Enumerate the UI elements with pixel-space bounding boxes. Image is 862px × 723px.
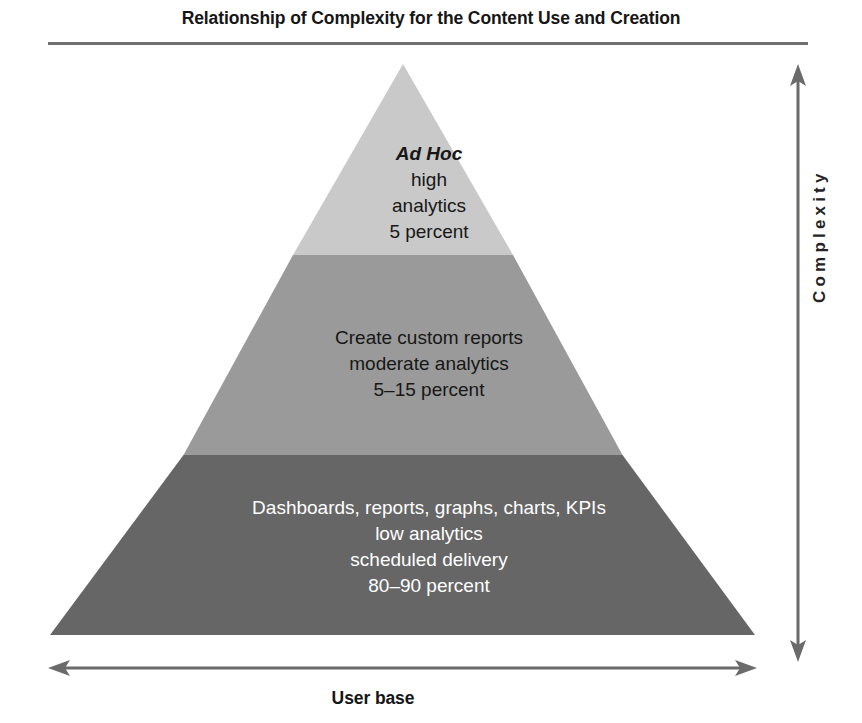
x-axis-label: User base [0,688,862,709]
x-axis-label-text: User base [332,688,415,708]
pyramid-tier-bottom [50,455,755,635]
pyramid-tier-middle [184,255,623,455]
pyramid-tier-top [293,64,513,255]
complexity-axis-arrow [790,64,806,662]
pyramid-svg [0,0,862,723]
pyramid-diagram: Ad Hoc high analytics 5 percent Create c… [0,0,862,723]
y-axis-label: Complexity [810,63,830,303]
pyramid-figure: Relationship of Complexity for the Conte… [0,0,862,723]
userbase-axis-arrow [48,660,757,676]
